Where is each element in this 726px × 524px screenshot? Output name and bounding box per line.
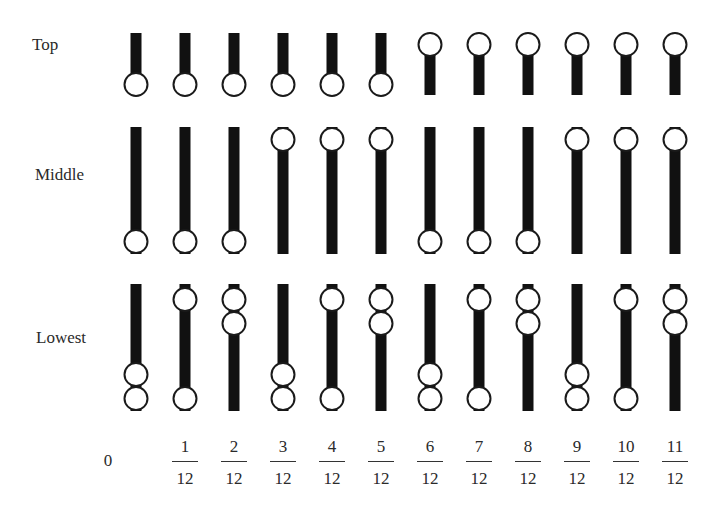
bead-lowest xyxy=(125,387,148,410)
bead-lowest xyxy=(566,363,589,386)
bead-lowest xyxy=(517,288,540,311)
tick-denominator: 12 xyxy=(413,468,447,490)
tick-numerator: 4 xyxy=(315,436,349,458)
tick-label: 612 xyxy=(413,436,447,490)
tick-denominator: 12 xyxy=(560,468,594,490)
tick-denominator: 12 xyxy=(462,468,496,490)
bead-top xyxy=(321,73,344,96)
bead-lowest xyxy=(272,387,295,410)
tick-numerator: 9 xyxy=(560,436,594,458)
tick-numerator: 2 xyxy=(217,436,251,458)
tick-label: 312 xyxy=(266,436,300,490)
tick-numerator: 7 xyxy=(462,436,496,458)
fraction-bar xyxy=(172,461,198,462)
bead-top xyxy=(566,33,589,56)
bead-top xyxy=(468,33,491,56)
tick-label: 112 xyxy=(168,436,202,490)
tick-denominator: 12 xyxy=(364,468,398,490)
tick-denominator: 12 xyxy=(266,468,300,490)
tick-denominator: 12 xyxy=(315,468,349,490)
tick-label: 1012 xyxy=(609,436,643,490)
bead-lowest xyxy=(615,387,638,410)
bead-lowest xyxy=(174,288,197,311)
bead-lowest xyxy=(321,288,344,311)
bead-top xyxy=(615,33,638,56)
bead-lowest xyxy=(615,288,638,311)
tick-label: 712 xyxy=(462,436,496,490)
bead-lowest xyxy=(566,387,589,410)
bead-middle xyxy=(321,128,344,151)
bead-middle xyxy=(272,128,295,151)
bead-top xyxy=(517,33,540,56)
fraction-bar xyxy=(613,461,639,462)
tick-denominator: 12 xyxy=(217,468,251,490)
tick-label: 912 xyxy=(560,436,594,490)
bead-lowest xyxy=(174,387,197,410)
tick-denominator: 12 xyxy=(511,468,545,490)
bead-top xyxy=(272,73,295,96)
tick-label: 512 xyxy=(364,436,398,490)
bead-top xyxy=(174,73,197,96)
tick-denominator: 12 xyxy=(168,468,202,490)
bead-lowest xyxy=(223,288,246,311)
bead-middle xyxy=(125,230,148,253)
bead-middle xyxy=(419,230,442,253)
bead-middle xyxy=(223,230,246,253)
fraction-bar xyxy=(319,461,345,462)
bead-middle xyxy=(370,128,393,151)
tick-numerator: 10 xyxy=(609,436,643,458)
bead-middle xyxy=(468,230,491,253)
tick-label: 1112 xyxy=(658,436,692,490)
bead-lowest xyxy=(321,387,344,410)
bead-top xyxy=(419,33,442,56)
fraction-bar xyxy=(564,461,590,462)
bead-top xyxy=(125,73,148,96)
fraction-bar xyxy=(417,461,443,462)
bead-middle xyxy=(566,128,589,151)
bead-lowest xyxy=(468,387,491,410)
bead-lowest xyxy=(125,363,148,386)
tick-label: 812 xyxy=(511,436,545,490)
bead-lowest xyxy=(272,363,295,386)
fraction-bar xyxy=(515,461,541,462)
fraction-bar xyxy=(662,461,688,462)
tick-denominator: 12 xyxy=(658,468,692,490)
fraction-bar xyxy=(466,461,492,462)
tick-label: 212 xyxy=(217,436,251,490)
tick-label: 0 xyxy=(91,451,125,471)
bead-top xyxy=(370,73,393,96)
tick-numerator: 1 xyxy=(168,436,202,458)
bead-middle xyxy=(615,128,638,151)
tick-numerator: 3 xyxy=(266,436,300,458)
bead-middle xyxy=(664,128,687,151)
tick-denominator: 12 xyxy=(609,468,643,490)
fraction-bar xyxy=(221,461,247,462)
tick-numerator: 8 xyxy=(511,436,545,458)
fraction-bar xyxy=(270,461,296,462)
bead-lowest xyxy=(370,312,393,335)
bead-lowest xyxy=(468,288,491,311)
tick-numerator: 6 xyxy=(413,436,447,458)
fraction-bar xyxy=(368,461,394,462)
bead-middle xyxy=(174,230,197,253)
bead-lowest xyxy=(664,312,687,335)
bead-lowest xyxy=(223,312,246,335)
tick-numerator: 5 xyxy=(364,436,398,458)
bead-lowest xyxy=(664,288,687,311)
bead-top xyxy=(223,73,246,96)
bead-lowest xyxy=(370,288,393,311)
bead-lowest xyxy=(419,387,442,410)
tick-label: 412 xyxy=(315,436,349,490)
bead-lowest xyxy=(517,312,540,335)
bead-lowest xyxy=(419,363,442,386)
tick-numerator: 11 xyxy=(658,436,692,458)
bead-top xyxy=(664,33,687,56)
bead-middle xyxy=(517,230,540,253)
